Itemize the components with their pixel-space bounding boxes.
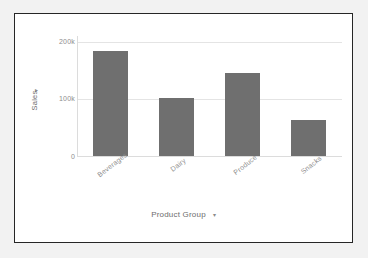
x-axis-tick-label: Snacks bbox=[299, 155, 322, 175]
x-axis-title[interactable]: Product Group ▾ bbox=[15, 210, 352, 219]
bar-slot bbox=[225, 36, 260, 156]
x-axis-tick-label-slot: Snacks bbox=[276, 158, 342, 202]
x-axis-dropdown-caret-icon[interactable]: ▾ bbox=[213, 212, 216, 218]
plot-area: ▾ Sales 0100k200k BeveragesDairyProduceS… bbox=[15, 14, 352, 242]
y-axis-tick-labels: 0100k200k bbox=[29, 14, 75, 242]
bar[interactable] bbox=[93, 51, 128, 156]
bar[interactable] bbox=[291, 120, 326, 156]
bar[interactable] bbox=[225, 73, 260, 156]
y-axis-tick-label: 0 bbox=[31, 153, 75, 160]
chart-canvas: ▾ Sales 0100k200k BeveragesDairyProduceS… bbox=[0, 0, 368, 258]
bar-slot bbox=[159, 36, 194, 156]
y-axis-tick-label: 100k bbox=[31, 95, 75, 102]
x-axis-tick-label: Dairy bbox=[170, 157, 188, 173]
x-axis-tick-label-slot: Beverages bbox=[77, 158, 143, 202]
x-axis-tick-labels: BeveragesDairyProduceSnacks bbox=[77, 158, 342, 202]
x-axis-tick-label-slot: Dairy bbox=[143, 158, 209, 202]
x-axis-tick-label-slot: Produce bbox=[210, 158, 276, 202]
bar-slot bbox=[291, 36, 326, 156]
y-axis-tick-label: 200k bbox=[31, 38, 75, 45]
bar-slot bbox=[93, 36, 128, 156]
bar-series bbox=[77, 36, 342, 156]
chart-frame: ▾ Sales 0100k200k BeveragesDairyProduceS… bbox=[14, 13, 353, 243]
bar[interactable] bbox=[159, 98, 194, 156]
x-axis-title-label: Product Group bbox=[151, 210, 206, 219]
